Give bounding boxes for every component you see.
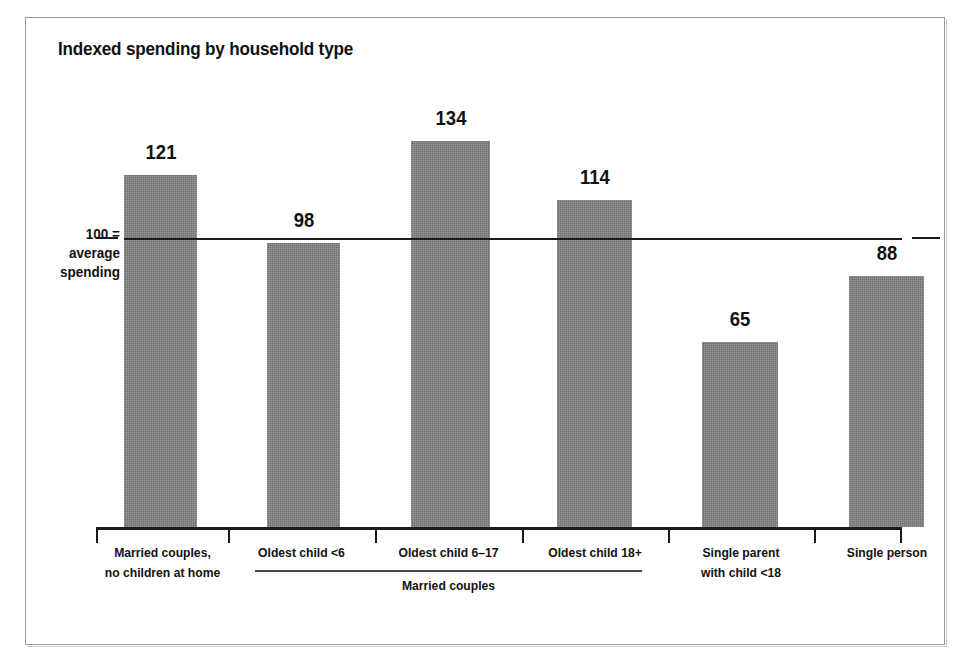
plot-area: 121 98 134 114 65 88 100 = average spend… [0,0,971,663]
bar-value-label: 65 [703,307,777,331]
x-axis-tick [228,530,230,543]
bar-value-label: 134 [414,106,488,130]
bar-single-person [849,276,924,527]
bar-oldest-child-under-6 [267,243,340,527]
bar-value-label: 88 [850,241,924,265]
bar-value-label: 114 [558,165,632,189]
category-label-line-1: Single person [821,543,952,563]
x-axis-line [96,527,902,530]
bar-value-label: 121 [125,140,197,164]
bar-oldest-child-18-plus [557,200,632,527]
x-axis-tick [668,530,670,543]
category-label-line-1: Married couples, [88,543,237,563]
bar-value-label: 98 [268,208,340,232]
reference-line-100 [124,238,902,240]
x-axis-tick [522,530,524,543]
reference-label-line-1: 100 = [53,224,120,243]
reference-label-line-2: average [53,243,120,262]
bar-single-parent [702,342,778,527]
x-axis-tick [375,530,377,543]
group-bracket-line [255,570,642,572]
category-label-line-1: Single parent [675,543,806,563]
x-axis-tick [96,530,98,543]
x-axis-tick [814,530,816,543]
bar-married-no-children [124,175,197,527]
category-label-oldest-child-6-17: Oldest child 6–17 [382,543,514,563]
group-label-married-couples: Married couples [274,578,622,593]
reference-tick-right [912,237,940,239]
category-label-married-no-children: Married couples, no children at home [88,543,237,582]
x-axis-tick [900,530,902,543]
reference-label-line-3: spending [53,262,120,281]
category-label-oldest-child-under-6: Oldest child <6 [235,543,367,563]
category-label-line-1: Oldest child 6–17 [382,543,514,563]
reference-line-label: 100 = average spending [53,224,120,282]
category-label-line-1: Oldest child 18+ [529,543,660,563]
category-label-single-person: Single person [821,543,952,563]
category-label-line-1: Oldest child <6 [235,543,367,563]
category-label-oldest-child-18-plus: Oldest child 18+ [529,543,660,563]
category-label-line-2: with child <18 [675,563,806,583]
category-label-line-2: no children at home [88,563,237,583]
category-label-single-parent: Single parent with child <18 [675,543,806,582]
chart-figure: Indexed spending by household type 121 9… [0,0,971,663]
bar-oldest-child-6-17 [411,141,490,527]
